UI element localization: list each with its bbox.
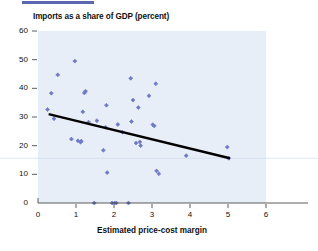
- x-tick-label: 4: [182, 210, 198, 219]
- scatter-points: [46, 59, 231, 205]
- x-tick-label: 6: [258, 210, 274, 219]
- x-tick-label: 1: [68, 210, 84, 219]
- y-tick-label: 30: [6, 112, 28, 121]
- y-tick-label: 60: [6, 26, 28, 35]
- y-tick-label: 10: [6, 169, 28, 178]
- x-tick-label: 2: [106, 210, 122, 219]
- x-tick-label: 3: [144, 210, 160, 219]
- axis-lines: [38, 198, 308, 203]
- y-tick-label: 0: [6, 198, 28, 207]
- y-tick-label: 20: [6, 141, 28, 150]
- trendline: [49, 114, 230, 158]
- x-axis-title: Estimated price-cost margin: [38, 226, 266, 235]
- chart-figure: Imports as a share of GDP (percent) 0102…: [0, 0, 318, 251]
- y-tick-label: 50: [6, 55, 28, 64]
- x-tick-label: 5: [220, 210, 236, 219]
- x-tick-label: 0: [30, 210, 46, 219]
- y-tick-label: 40: [6, 83, 28, 92]
